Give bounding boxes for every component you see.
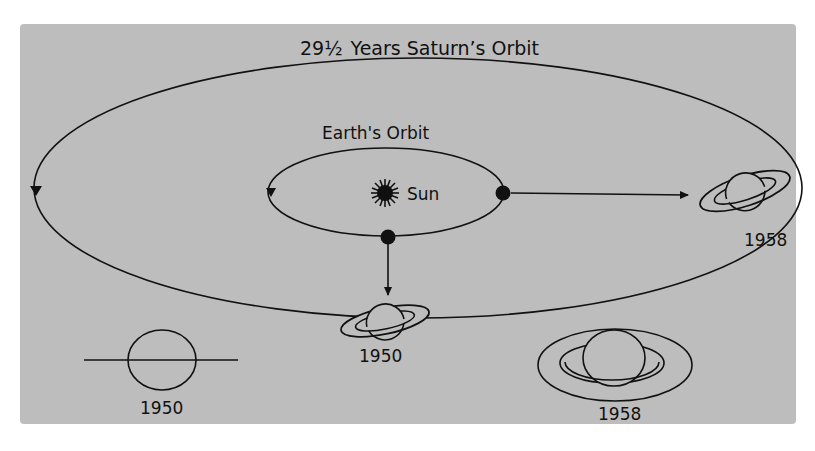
saturn-orbit-label: 29½Years Saturn’s Orbit	[300, 37, 539, 59]
sightline-arrow-1958	[511, 193, 688, 195]
saturn-orbit-direction-arrow	[30, 186, 42, 196]
year-label-1958-orbit: 1958	[744, 230, 787, 250]
earth-orbit-label: Earth's Orbit	[322, 123, 429, 143]
ring-view-1950	[84, 330, 238, 390]
ring-view-label-1958: 1958	[598, 404, 641, 424]
ring-view-label-1950: 1950	[140, 398, 183, 418]
earth-position-1950	[381, 230, 396, 245]
saturn-icon-1950	[337, 295, 433, 349]
sun-label: Sun	[407, 184, 439, 204]
earth-position-1958	[496, 186, 511, 201]
sun-icon	[371, 179, 399, 207]
year-label-1950-orbit: 1950	[359, 346, 402, 366]
saturn-icon-1958	[695, 159, 796, 224]
ring-view-1958	[538, 329, 692, 401]
saturn-orbit-diagram: 29½Years Saturn’s Orbit Earth's Orbit Su…	[0, 0, 815, 451]
